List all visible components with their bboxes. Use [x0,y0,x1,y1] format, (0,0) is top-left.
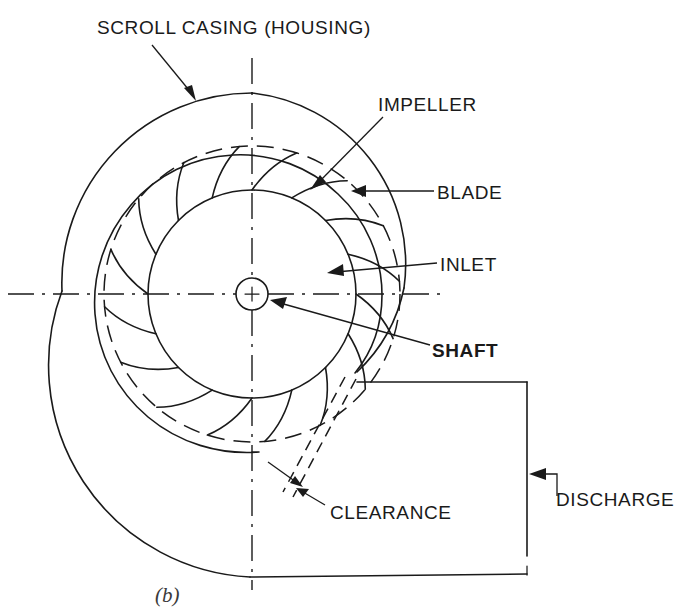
label-scroll-casing: SCROLL CASING (HOUSING) [97,17,371,38]
label-clearance: CLEARANCE [330,502,452,523]
figure-container: SCROLL CASING (HOUSING) IMPELLER BLADE I… [0,0,674,612]
figure-caption: (b) [155,583,180,607]
label-discharge: DISCHARGE [556,489,674,510]
label-inlet: INLET [440,254,497,275]
label-blade: BLADE [437,182,502,203]
label-shaft: SHAFT [432,340,498,361]
label-impeller: IMPELLER [378,94,477,115]
centrifugal-fan-diagram: SCROLL CASING (HOUSING) IMPELLER BLADE I… [0,0,674,612]
